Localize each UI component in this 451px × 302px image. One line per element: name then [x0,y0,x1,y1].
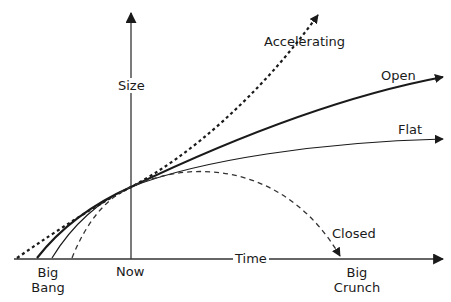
closed-curve [72,172,340,258]
accelerating-curve [17,15,318,258]
now-label: Now [116,264,144,279]
big-crunch-label-line2: Crunch [329,280,385,295]
big-bang-label-line1: Big [28,265,68,280]
closed-label: Closed [332,226,376,241]
big-bang-label-line2: Bang [28,280,68,295]
big-crunch-label-line1: Big [329,265,385,280]
big-crunch-label: Big Crunch [329,265,385,295]
diagram-canvas [0,0,451,302]
size-axis-label: Size [116,78,147,93]
big-bang-label: Big Bang [28,265,68,295]
accelerating-label: Accelerating [264,34,345,49]
open-label: Open [381,68,416,83]
time-axis-label: Time [233,251,269,266]
flat-label: Flat [398,122,422,137]
